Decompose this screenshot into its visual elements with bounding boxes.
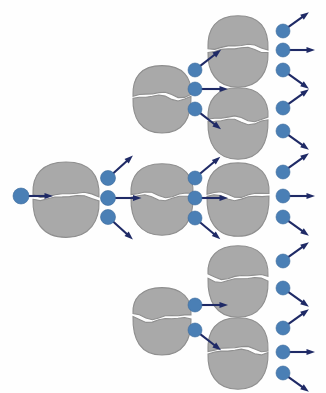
neutron-particle	[188, 102, 202, 116]
fissile-nucleus	[133, 288, 191, 355]
fissile-nucleus	[208, 246, 268, 317]
neutron-particle	[276, 254, 290, 268]
neutron-particle	[276, 124, 290, 138]
neutron-particle	[188, 82, 202, 96]
neutron-particle	[101, 191, 116, 206]
neutron-particle	[101, 210, 116, 225]
fissile-nucleus	[207, 163, 269, 236]
neutron-particle	[188, 323, 202, 337]
neutron-particle	[276, 189, 290, 203]
neutron-particle	[276, 281, 290, 295]
neutron-particle	[188, 63, 202, 77]
neutron-particle	[188, 211, 202, 225]
neutron-particle	[13, 188, 29, 204]
neutron-particle	[188, 191, 202, 205]
neutron-particle	[276, 24, 290, 38]
neutron-particle	[276, 63, 290, 77]
neutron-particle	[276, 345, 290, 359]
neutron-particle	[188, 171, 202, 185]
neutron-particle	[276, 43, 290, 57]
neutron-particle	[276, 210, 290, 224]
neutron-particle	[276, 165, 290, 179]
neutron-particle	[276, 101, 290, 115]
neutron-particle	[276, 321, 290, 335]
neutron-particle	[188, 298, 202, 312]
neutron-particle	[101, 171, 116, 186]
fissile-nucleus	[33, 162, 99, 237]
fissile-nucleus	[133, 66, 191, 133]
neutron-particle	[276, 366, 290, 380]
fission-chain-reaction-figure	[0, 0, 326, 393]
fission-diagram-canvas	[0, 0, 326, 393]
